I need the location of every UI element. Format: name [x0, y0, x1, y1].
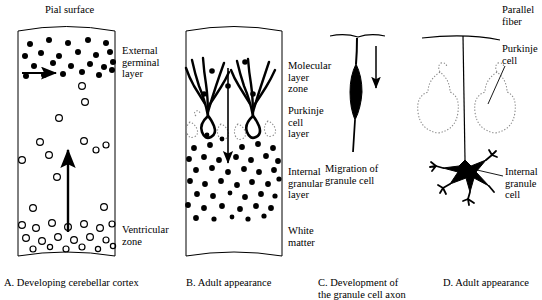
panel-c-parallel-fiber	[330, 35, 385, 37]
purkinje-cell-layer-label: Purkinje cell layer	[288, 105, 324, 140]
panel-a-group	[18, 27, 116, 257]
panel-d-ghost-purkinje-cells	[418, 63, 516, 133]
panel-b-ghost-cells	[186, 111, 275, 140]
panel-b-purkinje-soma-right	[246, 116, 260, 138]
panel-d-caption: D. Adult appearance	[443, 277, 529, 289]
panel-c-caption: C. Development of the granule cell axon	[318, 277, 406, 300]
panel-d-group	[418, 36, 516, 205]
panel-d-ascending-axon	[463, 36, 465, 160]
figure-drawing-layer	[0, 0, 542, 300]
molecular-layer-zone-label: Molecular layer zone	[288, 60, 331, 95]
panel-d-parallel-fiber-line	[422, 36, 500, 40]
internal-granular-layer-label: Internal granular layer	[288, 166, 323, 201]
panel-b-purkinje-cell-right	[231, 59, 275, 116]
internal-granule-cell-label: Internal granule cell	[505, 166, 538, 201]
panel-d-granule-leader-line	[477, 170, 503, 176]
panel-b-group	[185, 27, 282, 257]
migration-of-granule-cell-label: Migration of granule cell	[325, 163, 378, 186]
panel-c-granule-cell-soma	[350, 64, 362, 120]
white-matter-label: White matter	[288, 225, 315, 248]
parallel-fiber-label: Parallel fiber	[502, 4, 534, 27]
panel-b-caption: B. Adult appearance	[186, 277, 271, 289]
pial-surface-label: Pial surface	[45, 4, 94, 16]
panel-a-pial-surface-arc	[18, 27, 115, 32]
panel-c-trailing-process	[353, 120, 355, 152]
panel-b-pial-surface-arc	[186, 27, 282, 32]
purkinje-cell-label: Purkinje cell	[502, 43, 538, 66]
panel-a-caption: A. Developing cerebellar cortex	[4, 277, 139, 289]
panel-b-internal-granular-cells	[185, 133, 282, 222]
panel-c-leading-process	[356, 38, 357, 64]
panel-c-group	[330, 35, 385, 152]
external-germinal-layer-label: External germinal layer	[122, 45, 159, 80]
panel-b-purkinje-cell-left	[186, 58, 229, 116]
cerebellar-development-figure: Pial surface External germinal layer Ven…	[0, 0, 542, 300]
ventricular-zone-label: Ventricular zone	[122, 224, 169, 247]
panel-d-granule-cell-soma	[443, 160, 489, 192]
